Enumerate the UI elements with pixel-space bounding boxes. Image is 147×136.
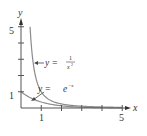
annotation-1-exponent: 2	[71, 62, 73, 67]
annotation-1-prefix: y =	[44, 58, 58, 68]
curve-inverse-square	[30, 27, 122, 108]
annotation-1-numerator: 1	[69, 55, 72, 61]
annotation-exponential: y = e −x	[31, 83, 74, 101]
y-axis-arrow-icon	[19, 18, 23, 25]
arrowhead-icon	[34, 61, 38, 65]
chart: y x 5 1 1 5 y = 1 x 2 y = e −x	[0, 0, 147, 136]
y-tick-label-1: 1	[9, 90, 14, 101]
annotation-inverse-square: y = 1 x 2	[34, 55, 75, 70]
x-axis-arrow-icon	[125, 106, 131, 110]
annotation-2-prefix: y =	[37, 84, 51, 94]
annotation-2-exponent: −x	[68, 83, 74, 88]
annotation-2-base: e	[63, 84, 67, 94]
x-tick-label-1: 1	[39, 112, 44, 123]
plot-curves	[21, 27, 122, 108]
y-axis-label: y	[17, 7, 23, 18]
annotation-1-denominator: x	[66, 64, 70, 70]
y-tick-label-5: 5	[9, 25, 14, 36]
x-tick-label-5: 5	[119, 112, 124, 123]
axes	[21, 22, 128, 108]
x-axis-label: x	[132, 102, 138, 113]
